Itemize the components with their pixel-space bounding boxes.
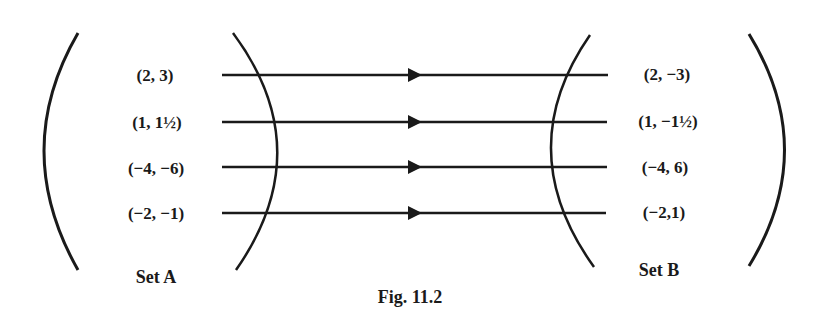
arrowhead-icon [408, 68, 422, 82]
set-a-right-bracket [233, 33, 277, 270]
mapping-arrow-3 [222, 160, 607, 174]
figure-caption: Fig. 11.2 [378, 288, 443, 306]
set-b-element-1: (2, −3) [644, 66, 691, 83]
set-a-title: Set A [136, 268, 177, 286]
set-b-right-bracket [749, 34, 785, 266]
arrowhead-icon [408, 115, 422, 129]
mapping-diagram [0, 0, 825, 311]
mapping-arrow-1 [222, 68, 608, 82]
set-b-left-bracket [551, 35, 594, 267]
set-b-element-2: (1, −1½) [638, 113, 697, 130]
mapping-arrow-2 [222, 115, 607, 129]
mapping-arrow-4 [222, 206, 606, 220]
set-a-element-2: (1, 1½) [132, 114, 182, 131]
arrowhead-icon [408, 160, 422, 174]
set-b-element-3: (−4, 6) [642, 159, 689, 176]
set-b-title: Set B [639, 261, 680, 279]
set-b-element-4: (−2,1) [643, 204, 685, 221]
set-a-left-bracket [44, 33, 78, 270]
set-a-element-3: (−4, −6) [128, 160, 184, 177]
arrowhead-icon [408, 206, 422, 220]
set-a-element-1: (2, 3) [137, 67, 174, 84]
set-a-element-4: (−2, −1) [128, 205, 184, 222]
